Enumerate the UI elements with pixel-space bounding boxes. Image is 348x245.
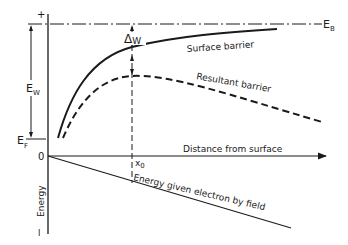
- resultant-barrier-curve: [63, 76, 322, 138]
- distance-axis-label: Distance from surface: [183, 144, 283, 154]
- field-line-label: Energy given electron by field: [133, 172, 267, 212]
- energy-axis-label: Energy: [36, 185, 46, 217]
- e-f-label: EF: [17, 134, 28, 150]
- e-w-label: EW: [24, 80, 40, 97]
- minus-label: I: [38, 229, 40, 238]
- zero-label: 0: [38, 151, 44, 162]
- delta-w-label: ΔW: [122, 32, 146, 46]
- field-energy-line: [48, 156, 291, 228]
- e-b-label: EB: [323, 18, 335, 33]
- resultant-barrier-label: Resultant barrier: [196, 71, 273, 94]
- work-function-diagram: + I EB EW EF ΔW 0 x0 Energy Surface barr…: [0, 0, 348, 245]
- plus-label: +: [37, 9, 45, 20]
- x0-label: x0: [135, 158, 145, 170]
- surface-barrier-label: Surface barrier: [186, 39, 254, 54]
